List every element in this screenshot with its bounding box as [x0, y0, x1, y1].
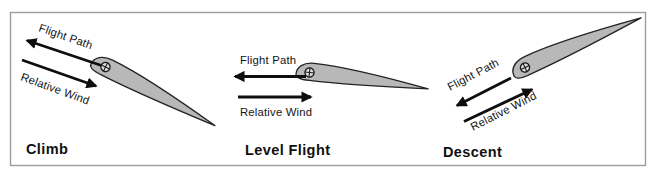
- diagram-canvas: Flight Path Relative Wind Climb Flight P…: [0, 0, 657, 174]
- panel-label-climb: Climb: [26, 141, 68, 157]
- flight-path-diagram: Flight Path Relative Wind Climb Flight P…: [0, 0, 657, 174]
- flight-path-label-level: Flight Path: [240, 54, 296, 66]
- panel-label-level-flight: Level Flight: [245, 142, 330, 158]
- cg-symbol-icon-level: [304, 67, 314, 77]
- panel-label-descent: Descent: [443, 144, 502, 160]
- relative-wind-label-level: Relative Wind: [240, 106, 312, 118]
